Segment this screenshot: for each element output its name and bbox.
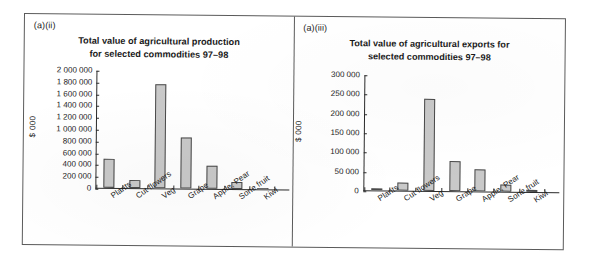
chart-title-line-1: Total value of agricultural exports for: [349, 38, 509, 50]
x-axis-labels-exports: PlantsCut flowersVegGrapeApple, PearSone…: [363, 191, 544, 243]
chart-panel-production: (a)(ii) Total value of agricultural prod…: [23, 14, 295, 247]
bar-slot: [96, 71, 123, 188]
y-axis-tick-label: 0: [87, 185, 96, 193]
bar-slot: [519, 77, 546, 192]
bar-slot: [441, 76, 468, 191]
x-label-slot: Kiwi: [518, 193, 544, 243]
y-axis-label-production: $ 000: [28, 116, 37, 138]
y-axis-tick-label: 300 000: [331, 71, 364, 79]
bar-group-exports: [364, 75, 546, 192]
y-axis-tick-label: 250 000: [331, 90, 364, 98]
x-label-slot: Plants: [96, 189, 122, 239]
chart-panel-exports: (a)(iii) Total value of agricultural exp…: [292, 17, 565, 250]
y-axis-tick-label: 50 000: [334, 168, 363, 176]
x-label-slot: Grape: [173, 189, 199, 239]
y-axis-tick-label: 0: [354, 187, 363, 195]
bar-slot: [390, 76, 417, 191]
y-axis-tick-label: 800 000: [63, 137, 96, 145]
bar-group-production: [96, 71, 276, 190]
y-axis-tick-label: 200 000: [62, 173, 95, 181]
plot-area-production: PlantsCut flowersVegGrapeApple, PearSone…: [95, 71, 276, 191]
y-axis-tick-label: 1 600 000: [57, 90, 97, 98]
x-label-slot: Cut flowers: [121, 189, 147, 239]
x-label-slot: Kiwi: [249, 190, 275, 240]
x-label-slot: Sone fruit: [493, 193, 519, 243]
y-axis-tick-label: 150 000: [330, 129, 363, 137]
x-label-slot: Sone fruit: [224, 190, 250, 240]
bar-grape[interactable]: [449, 161, 460, 191]
figure-frame: (a)(ii) Total value of agricultural prod…: [22, 13, 566, 250]
bar-slot: [147, 71, 174, 188]
y-axis-tick-label: 600 000: [63, 149, 96, 157]
bar-slot: [364, 75, 391, 190]
chart-title-production: Total value of agricultural production f…: [25, 34, 294, 62]
bar-slot: [467, 76, 494, 191]
bar-plants[interactable]: [104, 159, 115, 188]
chart-title-exports: Total value of agricultural exports for …: [294, 37, 565, 65]
y-axis-label-exports: $ 000: [294, 120, 303, 142]
x-label-slot: Veg: [147, 189, 173, 239]
bar-slot: [250, 72, 277, 189]
y-axis-tick-label: 100 000: [330, 148, 363, 156]
y-axis-tick-label: 1 000 000: [56, 125, 96, 133]
x-label-slot: Apple, Pear: [467, 192, 493, 242]
x-label-slot: Plants: [363, 191, 389, 241]
y-axis-tick-label: 400 000: [63, 161, 96, 169]
plot-area-exports: PlantsCut flowersVegGrapeApple, PearSone…: [363, 75, 546, 193]
x-axis-labels-production: PlantsCut flowersVegGrapeApple, PearSone…: [96, 189, 275, 241]
bar-slot: [122, 71, 149, 188]
x-label-slot: Cut flowers: [389, 192, 415, 242]
chart-title-line-1: Total value of agricultural production: [78, 36, 240, 48]
y-axis-tick-label: 1 200 000: [56, 114, 96, 122]
bar-slot: [199, 72, 226, 189]
panel-label-a-ii: (a)(ii): [34, 20, 56, 30]
chart-title-line-2: for selected commodities 97–98: [89, 48, 228, 59]
y-axis-tick-label: 200 000: [331, 110, 364, 118]
y-axis-tick-label: 1 400 000: [56, 102, 96, 110]
y-axis-tick-label: 1 800 000: [57, 78, 97, 86]
panel-label-a-iii: (a)(iii): [303, 23, 327, 33]
bar-slot: [173, 71, 200, 188]
bar-grape[interactable]: [180, 137, 191, 189]
y-axis-tick-label: 2 000 000: [57, 66, 97, 74]
x-label-slot: Grape: [441, 192, 467, 242]
x-label-slot: Apple, Pear: [198, 190, 224, 240]
chart-title-line-2: selected commodities 97–98: [368, 51, 491, 62]
x-label-slot: Veg: [415, 192, 441, 242]
bar-slot: [416, 76, 443, 191]
